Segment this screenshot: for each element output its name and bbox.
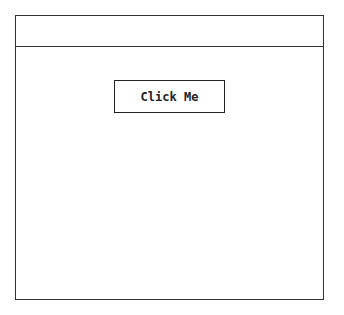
header-bar <box>16 16 323 47</box>
click-me-button[interactable]: Click Me <box>114 80 225 113</box>
app-window: Click Me <box>15 15 324 300</box>
